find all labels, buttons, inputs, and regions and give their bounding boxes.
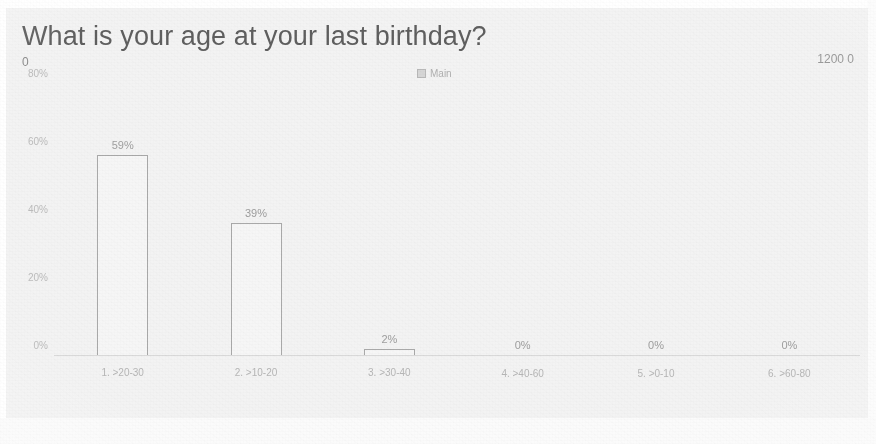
bar-value-label: 0% [515,339,531,351]
bar-2[interactable]: 39%2. >10-20 [231,223,282,356]
chart-legend: Main [417,68,452,79]
bar-value-label: 2% [381,333,397,345]
y-axis-tick-label: 40% [28,204,48,215]
y-axis-tick-label: 80% [28,68,48,79]
bar-value-label: 0% [648,339,664,351]
bar-value-label: 0% [781,339,797,351]
bar-1[interactable]: 59%1. >20-30 [97,155,148,356]
y-axis-tick-label: 0% [34,340,48,351]
bar-value-label: 59% [112,139,134,151]
x-axis-category-label: 2. >10-20 [235,367,278,378]
x-axis-category-label: 4. >40-60 [501,368,544,379]
x-axis-category-label: 6. >60-80 [768,368,811,379]
page-title: What is your age at your last birthday? [22,20,487,52]
x-axis-category-label: 3. >30-40 [368,367,411,378]
corner-label-right: 1200 0 [817,52,854,66]
slide-edge-left [0,0,6,444]
slide-edge-top [0,0,876,8]
chart-plot-area: 80%60%40%20%0% 59%1. >20-3039%2. >10-202… [56,84,856,356]
bar-value-label: 39% [245,207,267,219]
slide-edge-bottom [0,418,876,444]
y-axis-tick-label: 20% [28,272,48,283]
y-axis-tick-label: 60% [28,136,48,147]
slide-canvas: What is your age at your last birthday? … [0,0,876,444]
slide-edge-right [868,0,876,444]
x-axis-category-label: 5. >0-10 [638,368,675,379]
series-swatch-icon [417,69,426,78]
legend-item-label: Main [430,68,452,79]
x-axis-category-label: 1. >20-30 [101,367,144,378]
x-axis-baseline [54,355,860,356]
